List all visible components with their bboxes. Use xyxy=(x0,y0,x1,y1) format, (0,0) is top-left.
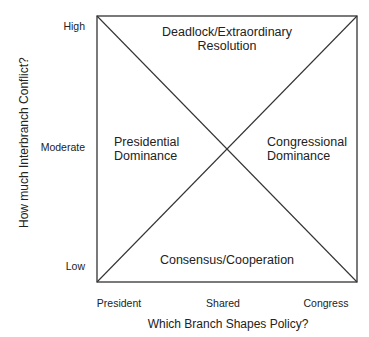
y-tick-high: High xyxy=(25,20,85,32)
quadrant-top-label: Deadlock/Extraordinary Resolution xyxy=(157,25,297,53)
quadrant-top-line2: Resolution xyxy=(157,39,297,53)
quadrant-right-line1: Congressional xyxy=(267,135,347,149)
quadrant-left-label: Presidential Dominance xyxy=(114,135,179,163)
quadrant-left-line1: Presidential xyxy=(114,135,179,149)
y-axis-title: How much Interbranch Conflict? xyxy=(17,57,31,228)
x-tick-shared: Shared xyxy=(183,297,263,309)
quadrant-bottom-label: Consensus/Cooperation xyxy=(147,253,307,267)
quadrant-right-label: Congressional Dominance xyxy=(267,135,347,163)
x-axis-title: Which Branch Shapes Policy? xyxy=(98,317,358,331)
x-tick-president: President xyxy=(79,297,159,309)
x-tick-congress: Congress xyxy=(286,297,366,309)
quadrant-top-line1: Deadlock/Extraordinary xyxy=(157,25,297,39)
quadrant-right-line2: Dominance xyxy=(267,149,347,163)
y-tick-moderate: Moderate xyxy=(25,141,85,153)
y-tick-low: Low xyxy=(25,260,85,272)
quadrant-bottom-line1: Consensus/Cooperation xyxy=(147,253,307,267)
quadrant-left-line2: Dominance xyxy=(114,149,179,163)
